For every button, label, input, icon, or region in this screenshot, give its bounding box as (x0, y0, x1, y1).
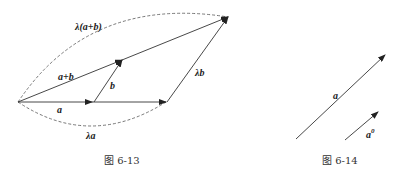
vector-b (94, 60, 122, 102)
vector-a0 (345, 112, 378, 140)
label-lambda-a: λa (85, 130, 95, 141)
caption-fig-6-13: 图 6-13 (104, 155, 140, 166)
label-a: a (57, 104, 62, 115)
figure-6-14: a a0 图 6-14 (296, 55, 385, 166)
label-lambda-a-plus-b: λ(a+b) (74, 21, 102, 33)
caption-fig-6-14: 图 6-14 (322, 155, 358, 166)
figure-6-13: λ(a+b) a+b b λb a λa 图 6-13 (18, 13, 228, 166)
lambda-a-arc (18, 102, 166, 126)
vector-diagrams: λ(a+b) a+b b λb a λa 图 6-13 a a0 图 6-14 (0, 0, 395, 176)
label-b: b (110, 80, 115, 91)
label-a: a (333, 90, 338, 101)
label-lambda-b: λb (194, 67, 204, 78)
label-a0: a0 (366, 127, 375, 140)
lambda-a-plus-b-arc (18, 13, 228, 102)
label-a-plus-b: a+b (58, 71, 74, 82)
